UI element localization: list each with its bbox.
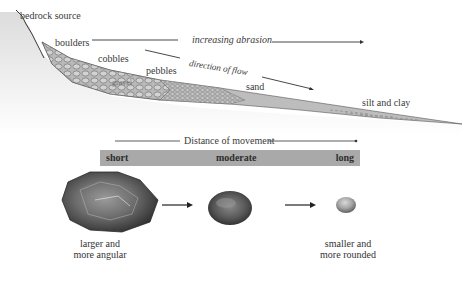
label-boulders: boulders: [55, 37, 89, 48]
label-sand: sand: [246, 81, 264, 92]
medium-rock: [208, 191, 252, 225]
label-gravel: gravel: [112, 78, 132, 87]
label-silt-and-clay: silt and clay: [362, 97, 410, 108]
scale-short: short: [106, 152, 128, 163]
large-angular-rock: [62, 172, 158, 232]
caption-large-line2: more angular: [60, 249, 140, 260]
caption-small-line2: more rounded: [308, 249, 388, 260]
label-cobbles: cobbles: [98, 53, 129, 64]
caption-large-line1: larger and: [60, 238, 140, 249]
label-increasing-abrasion: increasing abrasion: [192, 34, 272, 45]
small-rounded-rock: [336, 197, 356, 213]
caption-large-rock: larger and more angular: [60, 238, 140, 260]
scale-long: long: [336, 152, 354, 163]
scale-moderate: moderate: [216, 152, 257, 163]
label-pebbles: pebbles: [146, 65, 177, 76]
caption-small-line1: smaller and: [308, 238, 388, 249]
label-distance-of-movement: Distance of movement: [184, 135, 275, 146]
label-bedrock-source: bedrock source: [20, 10, 81, 21]
distance-scale-bar: short moderate long: [100, 150, 360, 166]
caption-small-rock: smaller and more rounded: [308, 238, 388, 260]
